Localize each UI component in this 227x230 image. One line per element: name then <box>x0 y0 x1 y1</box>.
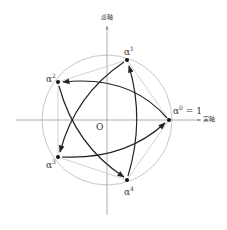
label-a0-suffix: = 1 <box>183 106 202 116</box>
point-a2 <box>56 80 60 84</box>
point-a0 <box>167 118 171 122</box>
label-a4-exp: 4 <box>130 185 134 192</box>
label-a2-exp: 2 <box>52 72 56 79</box>
label-a4: α4 <box>124 186 134 197</box>
label-a1: α1 <box>124 46 134 57</box>
arrow-a2-a4 <box>59 86 124 177</box>
point-a4 <box>125 178 129 182</box>
arrow-a0-a2 <box>63 81 167 118</box>
point-a1 <box>125 58 129 62</box>
label-a3: α3 <box>46 159 56 170</box>
label-a1-exp: 1 <box>130 45 134 52</box>
arrow-a3-a0 <box>62 123 165 157</box>
label-a0: α0 = 1 <box>173 105 202 116</box>
real-axis-label: 実軸 <box>203 116 215 122</box>
point-a3 <box>56 155 60 159</box>
label-a2: α2 <box>46 73 56 84</box>
arrow-a4-a1 <box>128 66 137 176</box>
diagram-canvas: 虚軸 実軸 O α0 = 1 α1 α2 α3 α4 <box>0 0 227 230</box>
arrow-a1-a3 <box>60 62 124 152</box>
label-a3-exp: 3 <box>52 158 56 165</box>
origin-label: O <box>96 123 103 132</box>
imaginary-axis-label: 虚軸 <box>101 14 113 20</box>
